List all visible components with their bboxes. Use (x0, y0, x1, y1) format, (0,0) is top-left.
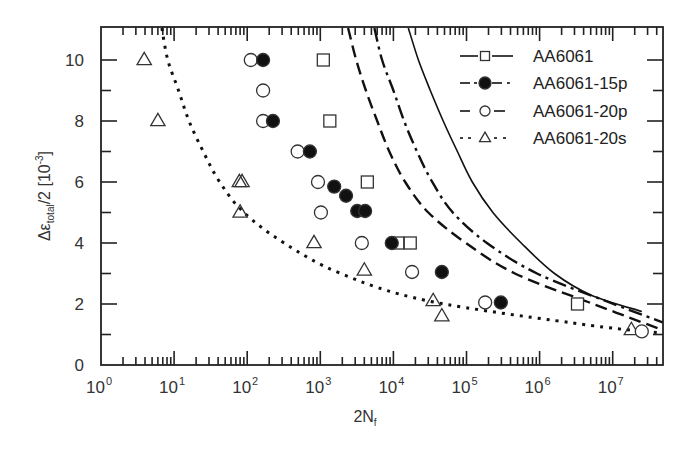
filled-circle-marker (385, 237, 398, 250)
x-tick-label: 105 (451, 375, 477, 397)
x-tick-label: 101 (159, 375, 185, 397)
triangle-marker (137, 52, 151, 64)
square-marker (481, 52, 490, 61)
y-tick-label: 8 (75, 112, 84, 131)
open-circle-marker (311, 176, 324, 189)
square-marker (572, 298, 584, 310)
filled-circle-marker (479, 77, 491, 89)
legend-label: AA6061-15p (533, 74, 628, 93)
open-circle-marker (257, 84, 270, 97)
open-circle-marker (480, 106, 490, 116)
y-tick-label: 4 (75, 234, 84, 253)
triangle-marker (480, 132, 491, 142)
filled-circle-marker (257, 54, 270, 67)
filled-circle-marker (340, 189, 353, 202)
filled-circle-marker (359, 204, 372, 217)
x-axis-title: 2Nf (353, 408, 376, 428)
x-tick-label: 107 (598, 375, 624, 397)
x-tick-label: 104 (378, 375, 404, 397)
open-circle-marker (291, 145, 304, 158)
legend-label: AA6061 (533, 47, 594, 66)
triangle-marker (426, 293, 440, 305)
triangle-marker (232, 174, 246, 186)
open-circle-marker (635, 325, 648, 338)
legend-item-3: AA6061-20p (460, 102, 628, 121)
filled-circle-marker (435, 265, 448, 278)
fatigue-life-chart: 100101102103104105106107 0246810 AA6061A… (0, 0, 686, 455)
filled-circle-marker (266, 115, 279, 128)
filled-circle-marker (494, 296, 507, 309)
open-circle-marker (244, 54, 257, 67)
legend-label: AA6061-20s (533, 129, 627, 148)
x-axis-tick-labels: 100101102103104105106107 (86, 375, 624, 397)
open-circle-marker (479, 296, 492, 309)
filled-circle-marker (328, 180, 341, 193)
triangle-marker (151, 113, 165, 125)
y-tick-label: 6 (75, 173, 84, 192)
fit-curve-2 (374, 28, 662, 322)
y-tick-label: 10 (65, 51, 84, 70)
legend-item-4: AA6061-20s (460, 129, 627, 148)
triangle-marker (435, 309, 449, 321)
y-tick-label: 0 (75, 356, 84, 375)
y-tick-label: 2 (75, 295, 84, 314)
legend-label: AA6061-20p (533, 102, 628, 121)
square-marker (324, 115, 336, 127)
triangle-marker (235, 174, 249, 186)
y-axis-title: Δεtotal/2 [10-3] (34, 151, 56, 241)
triangle-marker (357, 263, 371, 275)
x-tick-label: 100 (86, 375, 112, 397)
x-tick-label: 106 (525, 375, 551, 397)
triangle-marker (307, 235, 321, 247)
square-marker (317, 54, 329, 66)
x-tick-label: 102 (232, 375, 258, 397)
square-marker (404, 237, 416, 249)
y-axis-tick-labels: 0246810 (65, 51, 84, 375)
open-circle-marker (355, 237, 368, 250)
filled-circle-marker (303, 145, 316, 158)
legend-item-1: AA6061 (460, 47, 594, 66)
open-circle-marker (314, 206, 327, 219)
square-marker (361, 176, 373, 188)
legend: AA6061AA6061-15pAA6061-20pAA6061-20s (460, 47, 628, 148)
legend-item-2: AA6061-15p (460, 74, 628, 93)
x-tick-label: 103 (305, 375, 331, 397)
open-circle-marker (406, 265, 419, 278)
